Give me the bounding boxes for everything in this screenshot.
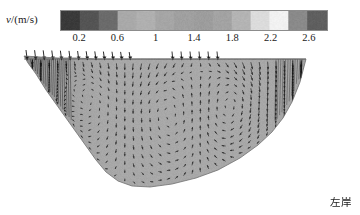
colorbar-tick-0.2: 0.2	[73, 32, 86, 43]
colorbar	[60, 10, 328, 31]
colorbar-tick-1.4: 1.4	[187, 32, 200, 43]
colorbar-tick-labels: 0.20.611.41.82.22.6	[60, 32, 328, 46]
cross-section-vector-plot	[0, 48, 360, 203]
colorbar-tick-1: 1	[153, 32, 158, 43]
colorbar-tick-2.2: 2.2	[264, 32, 277, 43]
colorbar-tick-1.8: 1.8	[226, 32, 239, 43]
colorbar-tick-0.6: 0.6	[111, 32, 124, 43]
colorbar-axis-label: v/(m/s)	[6, 13, 38, 25]
velocity-vector-figure: v/(m/s) 0.20.611.41.82.22.6 左岸	[0, 0, 360, 215]
colorbar-gradient	[60, 10, 328, 31]
colorbar-label-unit: /(m/s)	[11, 13, 38, 25]
colorbar-tick-2.6: 2.6	[302, 32, 315, 43]
left-bank-annotation: 左岸	[330, 194, 351, 209]
